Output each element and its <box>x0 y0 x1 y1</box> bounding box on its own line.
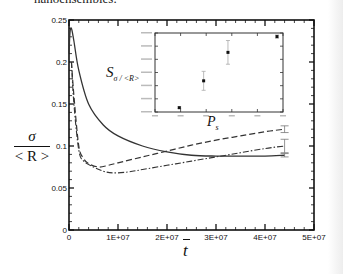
x-tick-label: 0 <box>67 233 72 242</box>
main-chart: 01E+072E+073E+074E+075E+0700.050.10.150.… <box>0 0 343 274</box>
inset-y-tick-label <box>141 72 152 74</box>
inset-data-point <box>202 79 205 82</box>
y-tick-label: 0.2 <box>56 58 68 67</box>
inset-y-tick-label <box>141 98 152 100</box>
x-tick-label: 4E+07 <box>253 233 277 242</box>
inset-data-point <box>178 106 181 109</box>
y-tick-label: 0.25 <box>51 16 67 25</box>
y-axis-label-denominator: < R > <box>14 147 50 165</box>
inset-y-tick-label <box>141 32 152 34</box>
x-axis-label: t <box>183 241 188 261</box>
inset-x-axis-label: Ps <box>207 114 219 132</box>
y-tick-label: 0.05 <box>51 184 67 193</box>
y-tick-label: 0.15 <box>51 100 67 109</box>
inset-y-axis-label: Sσ / <R> <box>106 64 139 83</box>
x-tick-label: 3E+07 <box>204 233 228 242</box>
inset-data-point <box>276 35 279 38</box>
inset-frame <box>155 33 283 112</box>
y-axis-label: σ < R > <box>14 128 50 165</box>
inset-y-tick-label <box>141 45 152 47</box>
inset-x-tick-label <box>178 115 184 117</box>
inset-y-tick-label <box>141 111 152 113</box>
inset-x-tick-label <box>152 115 158 117</box>
x-tick-label: 2E+07 <box>155 233 179 242</box>
x-tick-label: 1E+07 <box>106 233 130 242</box>
y-tick-label: 0.1 <box>56 142 68 151</box>
inset-data-point <box>226 51 229 54</box>
y-tick-label: 0 <box>63 226 68 235</box>
inset-y-tick-label <box>141 85 152 87</box>
inset-x-tick-label <box>229 115 235 117</box>
inset-y-tick-label <box>141 58 152 60</box>
inset-x-tick-label <box>280 115 286 117</box>
y-axis-label-numerator: σ <box>14 128 50 147</box>
x-tick-label: 5E+07 <box>302 233 326 242</box>
inset-x-tick-label <box>254 115 260 117</box>
